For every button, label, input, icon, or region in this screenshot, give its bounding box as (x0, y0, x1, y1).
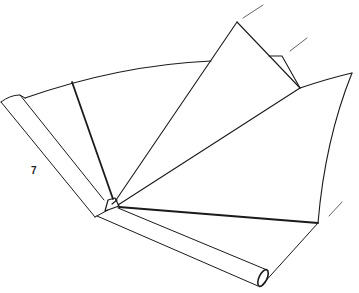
top-arc-edge (25, 61, 211, 98)
step-number-label: 7 (31, 165, 37, 176)
triangle-flap (116, 22, 300, 200)
hub-detail (105, 198, 119, 211)
right-sail (118, 73, 352, 223)
crease-line-left (72, 82, 113, 199)
folding-diagram (0, 0, 359, 293)
motion-dashes (243, 5, 342, 216)
left-roll (1, 95, 108, 217)
